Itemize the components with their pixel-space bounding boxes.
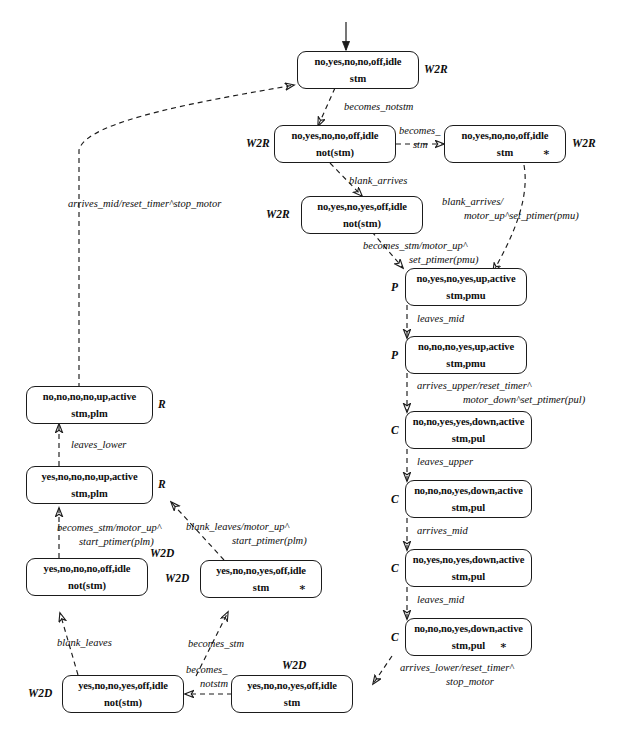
edge-label-text: becomes_stm [188,638,244,649]
state-line2: stm [350,72,366,85]
state-tag-s9: C [391,562,399,574]
edge-label-becomes-notstm-bottom: becomes_ notstm [186,663,228,690]
state-node-s3[interactable]: no,yes,no,no,off,idle stm ∗ [444,125,566,163]
state-tag-s11: W2D [282,659,306,671]
state-line1: no,no,no,yes,up,active [418,340,514,353]
state-tag-s5: P [391,281,398,293]
edge-label-blank-arrives-motor-up: blank_arrives/ motor_up^set_ptimer(pmu) [442,195,579,222]
edge-label-text: becomes_stm/motor_up^ [57,522,161,533]
state-tag-s3: W2R [572,137,596,149]
state-node-s11[interactable]: yes,no,no,yes,off,idle stm [231,675,353,713]
edge-label-text: arrives_upper/reset_timer^ [417,380,531,391]
state-line2: stm ∗ [253,581,269,594]
edge-label-text: leaves_upper [417,456,473,467]
state-line1: no,no,yes,yes,down,active [413,415,525,428]
edge-label-text: blank_leaves [57,637,112,648]
edge-label-text2: stm [399,138,440,152]
state-node-s10[interactable]: no,no,no,yes,down,active stm,pul ∗ [405,618,532,656]
edge-label-blank-arrives: blank_arrives [349,174,407,188]
edge-label-becomes-stm-bottom: becomes_stm [188,637,244,651]
edge-s16-s1 [79,85,294,388]
state-tag-s15: R [158,478,166,490]
edge-label-text: becomes_ [186,664,227,675]
edge-label-arrives-mid-reset-timer: arrives_mid/reset_timer^stop_motor [68,197,221,211]
state-line2: stm,pul [452,432,486,445]
state-line1: no,yes,no,no,off,idle [315,55,402,68]
edge-label-text2: motor_down^set_ptimer(pul) [417,393,585,407]
edge-label-text2: motor_up^set_ptimer(pmu) [442,209,579,223]
state-line1: yes,no,no,yes,off,idle [247,679,337,692]
state-node-s12[interactable]: yes,no,no,yes,off,idle not(stm) [62,675,184,713]
edge-label-text: blank_leaves/motor_up^ [186,521,289,532]
state-line1: no,no,no,yes,down,active [414,622,523,635]
edge-label-becomes-stm-motor-up-plm: becomes_stm/motor_up^ start_ptimer(plm) [57,521,161,548]
edge-label-becomes-stm-top: becomes_ stm [399,124,440,151]
state-line1: yes,no,no,yes,off,idle [78,679,168,692]
state-line1: yes,no,no,yes,off,idle [216,564,306,577]
edge-label-text: blank_arrives [349,175,407,186]
state-tag-s10: C [391,631,399,643]
edge-label-blank-leaves: blank_leaves [57,636,112,650]
state-line2: stm,pul ∗ [452,639,486,652]
state-tag-s13: W2D [165,572,189,584]
state-node-s14[interactable]: yes,no,no,no,off,idle not(stm) [26,558,148,596]
state-line1: no,no,no,no,up,active [43,390,136,403]
state-tag-s7: C [391,424,399,436]
edge-label-leaves-mid-2: leaves_mid [417,593,464,607]
edge-label-leaves-mid-1: leaves_mid [417,312,464,326]
edge-s1-s2 [318,88,335,126]
state-node-s2[interactable]: no,yes,no,no,off,idle not(stm) [274,125,396,163]
state-line1: yes,no,no,no,off,idle [44,562,131,575]
state-line1: no,yes,no,yes,off,idle [317,200,407,213]
edge-label-text: leaves_mid [417,313,464,324]
state-tag-s2: W2R [246,137,270,149]
state-tag-s12: W2D [28,687,52,699]
edge-label-text2: notstm [186,677,228,691]
edge-s10-s11 [373,656,392,684]
state-diagram-canvas: no,yes,no,no,off,idle stm W2R no,yes,no,… [0,0,620,738]
edge-label-text: arrives_lower/reset_timer^ [400,662,514,673]
edge-label-text2: start_ptimer(plm) [186,534,307,548]
edge-label-leaves-lower: leaves_lower [71,438,126,452]
state-line1: no,yes,no,yes,down,active [413,553,525,566]
state-node-s4[interactable]: no,yes,no,yes,off,idle not(stm) [301,196,423,234]
edge-label-text2: set_ptimer(pmu) [363,253,478,267]
edge-label-text: arrives_mid/reset_timer^stop_motor [68,198,221,209]
state-node-s15[interactable]: yes,no,no,no,up,active stm,plm [26,466,153,504]
state-node-s6[interactable]: no,no,no,yes,up,active stm,pmu [405,336,527,374]
state-node-s16[interactable]: no,no,no,no,up,active stm,plm [26,386,153,424]
state-line1: no,yes,no,no,off,idle [292,129,379,142]
edge-label-blank-leaves-motor-up: blank_leaves/motor_up^ start_ptimer(plm) [186,520,307,547]
edge-label-leaves-upper: leaves_upper [417,455,473,469]
edge-label-text: becomes_ [399,125,440,136]
edge-label-text: blank_arrives/ [442,196,503,207]
state-tag-s14: W2D [150,547,174,559]
edge-label-arrives-upper: arrives_upper/reset_timer^ motor_down^se… [417,379,585,406]
state-line2-text: stm [253,582,269,593]
state-line1: no,yes,no,yes,up,active [417,272,516,285]
edge-label-arrives-lower: arrives_lower/reset_timer^ stop_motor [400,661,514,688]
state-tag-s4: W2R [266,208,290,220]
state-node-s8[interactable]: no,no,no,yes,down,active stm,pul [405,480,532,518]
state-node-s1[interactable]: no,yes,no,no,off,idle stm [297,51,419,89]
state-line1: no,no,no,yes,down,active [414,484,523,497]
state-line2: not(stm) [343,217,381,230]
state-node-s7[interactable]: no,no,yes,yes,down,active stm,pul [405,411,532,449]
edge-label-text2: stop_motor [400,675,514,689]
state-line2: not(stm) [68,579,106,592]
state-tag-s1: W2R [424,63,448,75]
state-node-s13[interactable]: yes,no,no,yes,off,idle stm ∗ [200,560,322,598]
state-line2: not(stm) [104,696,142,709]
state-node-s5[interactable]: no,yes,no,yes,up,active stm,pmu [405,268,527,306]
state-line1: no,yes,no,no,off,idle [462,129,549,142]
state-line1: yes,no,no,no,up,active [41,470,137,483]
state-line2: stm,pmu [446,357,485,370]
state-line2: stm ∗ [497,146,513,159]
state-node-s9[interactable]: no,yes,no,yes,down,active stm,pul [405,549,532,587]
edge-label-arrives-mid-1: arrives_mid [417,524,468,538]
state-line2: stm,pmu [446,289,485,302]
state-line2: stm [284,696,300,709]
state-line2: not(stm) [316,146,354,159]
final-state-star: ∗ [543,147,551,158]
edge-label-text: arrives_mid [417,525,468,536]
